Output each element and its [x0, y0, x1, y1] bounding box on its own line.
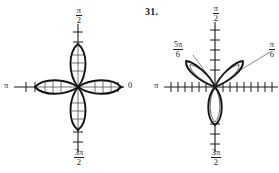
pi-over-2-denominator: 2: [213, 13, 219, 23]
five-pi-over-6-denominator: 6: [173, 49, 184, 59]
pi-over-2-denominator: 2: [76, 15, 82, 25]
axis-label-left-3pi-over-2: 3π 2: [67, 148, 91, 166]
axis-label-right-pi-over-2: π 2: [207, 4, 225, 22]
axis-label-left-pi: π: [4, 81, 8, 90]
pi-over-6-numerator: π: [269, 40, 275, 49]
pi-over-2-numerator: π: [213, 4, 219, 13]
three-pi-over-2-denominator: 2: [211, 157, 222, 167]
three-pi-over-2-numerator: 3π: [74, 148, 85, 157]
pi-over-2-numerator: π: [76, 6, 82, 15]
polar-figure-left: π 0 π 2 3π 2: [0, 0, 140, 173]
three-pi-over-2-denominator: 2: [74, 157, 85, 167]
axis-label-left-zero: 0: [128, 81, 132, 90]
axis-label-right-pi-over-6: π 6: [264, 40, 279, 58]
polar-figure-right: 31.: [140, 0, 279, 173]
five-pi-over-6-numerator: 5π: [173, 40, 184, 49]
axis-label-left-pi-over-2: π 2: [70, 6, 88, 24]
three-pi-over-2-numerator: 3π: [211, 148, 222, 157]
axis-label-right-5pi-over-6: 5π 6: [166, 40, 190, 58]
axis-label-right-pi: π: [154, 81, 158, 90]
pi-over-6-denominator: 6: [269, 49, 275, 59]
axis-label-right-3pi-over-2: 3π 2: [204, 148, 228, 166]
